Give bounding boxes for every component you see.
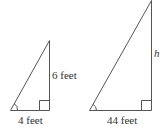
small-height-label: 6 feet [52,69,77,81]
large-height-label: h [154,47,160,59]
similar-triangles-diagram: 6 feet 4 feet h 44 feet [0,0,164,130]
small-angle-arc [14,104,17,111]
large-right-angle-marker [142,101,152,111]
small-base-label: 4 feet [18,114,43,126]
large-triangle [90,1,152,111]
large-triangle-outline [90,1,152,111]
small-triangle [11,41,50,111]
large-base-label: 44 feet [107,114,137,126]
small-right-angle-marker [40,101,50,111]
large-angle-arc [93,104,96,110]
